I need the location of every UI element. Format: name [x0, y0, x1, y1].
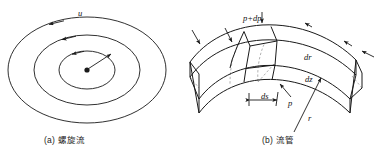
element-edge-left-inner — [244, 69, 246, 83]
flow-tube-diagram — [190, 12, 374, 132]
element-face-right — [271, 27, 277, 42]
pressure-arrow-5 — [344, 41, 352, 46]
panel-a-caption: (a) 螺旋流 — [44, 133, 85, 145]
tube-outlet-face — [350, 60, 356, 113]
pressure-arrow-2 — [225, 28, 232, 42]
pressure-inner-label: p — [288, 98, 292, 108]
radial-thickness-label: dr — [304, 52, 312, 62]
tube-inner-front-edge — [199, 65, 350, 99]
pressure-arrow-4 — [305, 23, 312, 27]
velocity-vector-arrow — [89, 54, 112, 69]
element-face-left — [230, 32, 244, 69]
tube-inner-bottom-edge — [199, 79, 350, 113]
pressure-arrow-1 — [192, 30, 200, 44]
hidden-edge-element-back — [258, 45, 264, 83]
radius-label: r — [308, 113, 311, 123]
outer-pressure-arrows — [192, 12, 374, 57]
element-edge-right-inner — [272, 65, 275, 80]
element-edge-left-outer — [244, 32, 250, 47]
pressure-outer-label: p+dp — [243, 13, 262, 23]
tube-outlet-depth-top — [356, 60, 362, 73]
panel-b-caption: (b) 流管 — [262, 133, 294, 145]
velocity-label: u — [78, 8, 82, 18]
dimension-tick-right — [276, 92, 278, 106]
tube-outer-front-edge — [190, 40, 356, 77]
element-edge-right-lower — [275, 41, 277, 65]
pressure-inner-leader — [280, 84, 291, 97]
element-edge-left-lower — [246, 46, 250, 69]
arc-length-label: ds — [261, 91, 269, 101]
axial-thickness-label: dz — [305, 74, 313, 84]
figure-container: (a) 螺旋流 (b) 流管 u p+dp dr dz ds p r — [0, 0, 384, 162]
tube-inlet-face — [190, 62, 199, 113]
pressure-arrow-6 — [362, 51, 374, 57]
